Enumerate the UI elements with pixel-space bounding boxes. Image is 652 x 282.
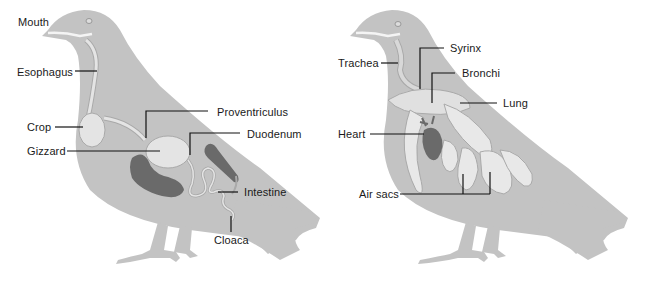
label-lung: Lung [503,97,528,109]
respiratory-bird-illustration [0,0,652,282]
label-mouth: Mouth [18,16,49,28]
label-cloaca: Cloaca [214,234,249,246]
bird-silhouette-right [350,10,628,264]
label-esophagus: Esophagus [17,66,73,78]
label-syrinx: Syrinx [450,42,481,54]
label-duodenum: Duodenum [247,128,302,140]
label-gizzard: Gizzard [27,145,66,157]
label-trachea: Trachea [338,57,379,69]
bird-anatomy-diagram: Mouth Esophagus Crop Gizzard Proventricu… [0,0,652,282]
label-air-sacs: Air sacs [359,188,399,200]
label-proventriculus: Proventriculus [217,106,288,118]
label-crop: Crop [27,121,51,133]
label-intestine: Intestine [244,186,286,198]
label-heart: Heart [338,128,365,140]
label-bronchi: Bronchi [462,67,500,79]
